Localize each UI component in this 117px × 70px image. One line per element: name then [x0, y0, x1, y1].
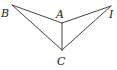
segment-a-i [62, 6, 111, 23]
segment-i-c [62, 6, 111, 50]
point-label-c: C [57, 55, 66, 68]
point-label-i: I [108, 8, 114, 21]
point-label-a: A [55, 8, 64, 21]
segment-b-a [12, 5, 62, 23]
geometry-diagram: B A I C [0, 0, 117, 70]
point-label-b: B [0, 7, 9, 20]
segment-b-c [12, 5, 62, 50]
